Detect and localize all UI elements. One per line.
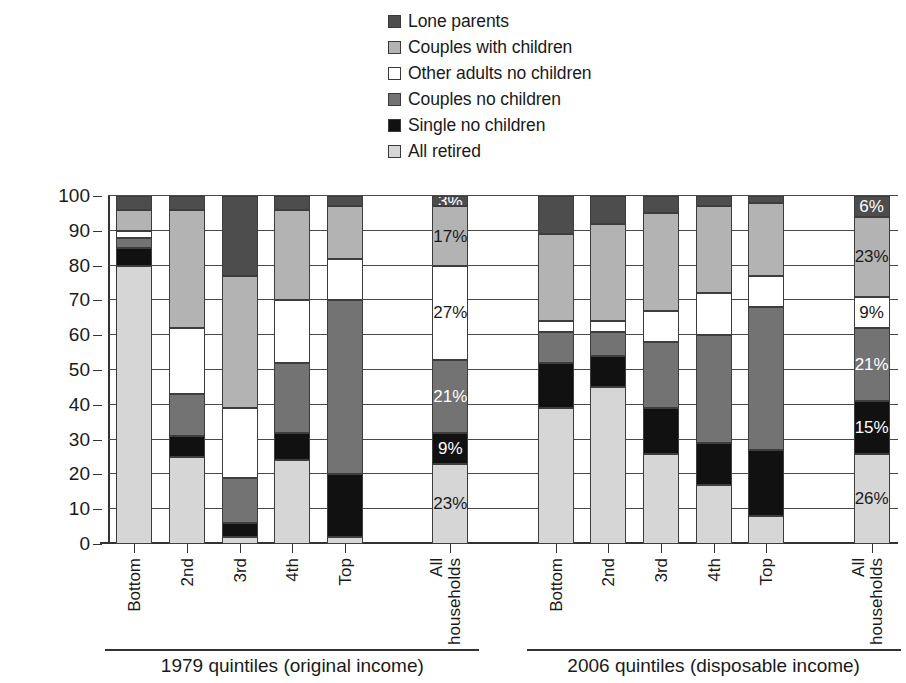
- segment-data-label: 6%: [859, 198, 884, 215]
- bar-segment[interactable]: [274, 210, 310, 300]
- bar-segment[interactable]: [327, 196, 363, 206]
- bar-segment[interactable]: [748, 196, 784, 203]
- bar-segment[interactable]: 6%: [854, 196, 890, 217]
- bar-segment[interactable]: [590, 332, 626, 356]
- bar-segment[interactable]: 21%: [854, 328, 890, 401]
- legend-item[interactable]: Single no children: [388, 112, 718, 138]
- stacked-bar[interactable]: [643, 196, 679, 544]
- bar-segment[interactable]: [748, 450, 784, 516]
- stacked-bar[interactable]: [590, 196, 626, 544]
- bar-segment[interactable]: [116, 266, 152, 544]
- bar-segment[interactable]: [696, 335, 732, 443]
- bar-segment[interactable]: [748, 307, 784, 450]
- bar-segment[interactable]: [643, 408, 679, 453]
- bar-segment[interactable]: [116, 231, 152, 238]
- group-bracket: [105, 649, 479, 651]
- bar-segment[interactable]: 3%: [432, 196, 468, 206]
- stacked-bar[interactable]: [538, 196, 574, 544]
- bar-segment[interactable]: [538, 363, 574, 408]
- bar-segment[interactable]: [116, 248, 152, 265]
- bar-segment[interactable]: [590, 196, 626, 224]
- bar-segment[interactable]: [327, 474, 363, 537]
- bar-segment[interactable]: [696, 196, 732, 206]
- legend-item[interactable]: Couples no children: [388, 86, 718, 112]
- legend-item[interactable]: All retired: [388, 138, 718, 164]
- bar-segment[interactable]: [748, 203, 784, 276]
- stacked-bar[interactable]: 23%9%21%27%17%3%: [432, 196, 468, 544]
- bar-segment[interactable]: [116, 238, 152, 248]
- bar-segment[interactable]: [274, 363, 310, 433]
- bar-segment[interactable]: [116, 210, 152, 231]
- bar-segment[interactable]: [327, 300, 363, 474]
- bar-segment[interactable]: 23%: [432, 464, 468, 544]
- bar-segment[interactable]: [696, 443, 732, 485]
- x-axis-tick-mark: [661, 544, 662, 553]
- x-axis-tick-mark: [187, 544, 188, 553]
- bar-segment[interactable]: [274, 196, 310, 210]
- x-axis-tick-mark: [556, 544, 557, 553]
- stacked-bar[interactable]: [116, 196, 152, 544]
- bar-segment[interactable]: [222, 537, 258, 544]
- bar-segment[interactable]: [643, 342, 679, 408]
- bar-segment[interactable]: [590, 356, 626, 387]
- bar-segment[interactable]: [538, 196, 574, 234]
- bar-segment[interactable]: [327, 537, 363, 544]
- bar-segment[interactable]: [643, 454, 679, 544]
- bar-segment[interactable]: [538, 408, 574, 544]
- x-axis-tick-label: 4th: [705, 558, 725, 650]
- bar-segment[interactable]: 9%: [854, 297, 890, 328]
- stacked-bar[interactable]: [169, 196, 205, 544]
- bar-segment[interactable]: [169, 394, 205, 436]
- bar-segment[interactable]: [538, 332, 574, 363]
- bar-segment[interactable]: [327, 206, 363, 258]
- bar-segment[interactable]: [538, 234, 574, 321]
- bar-segment[interactable]: 26%: [854, 454, 890, 544]
- bar-segment[interactable]: [748, 516, 784, 544]
- bar-segment[interactable]: [590, 321, 626, 331]
- bar-segment[interactable]: [116, 196, 152, 210]
- stacked-bar[interactable]: [696, 196, 732, 544]
- bar-segment[interactable]: 21%: [432, 360, 468, 433]
- bar-segment[interactable]: [643, 311, 679, 342]
- legend-item[interactable]: Lone parents: [388, 8, 718, 34]
- bar-segment[interactable]: [538, 321, 574, 331]
- bar-segment[interactable]: [590, 387, 626, 544]
- stacked-bar[interactable]: [327, 196, 363, 544]
- bar-segment[interactable]: [274, 433, 310, 461]
- x-axis-tick-label: Bottom: [547, 558, 567, 650]
- legend-item[interactable]: Other adults no children: [388, 60, 718, 86]
- x-axis-tick-label: 2nd: [178, 558, 198, 650]
- bar-segment[interactable]: 23%: [854, 217, 890, 297]
- bar-segment[interactable]: [748, 276, 784, 307]
- bar-segment[interactable]: [222, 276, 258, 408]
- stacked-bar[interactable]: [748, 196, 784, 544]
- bar-segment[interactable]: [222, 408, 258, 478]
- legend-item[interactable]: Couples with children: [388, 34, 718, 60]
- bar-segment[interactable]: [643, 213, 679, 310]
- bar-segment[interactable]: [327, 259, 363, 301]
- bar-segment[interactable]: 15%: [854, 401, 890, 453]
- stacked-bar[interactable]: [274, 196, 310, 544]
- bar-segment[interactable]: [696, 206, 732, 293]
- bar-segment[interactable]: [169, 436, 205, 457]
- bar-segment[interactable]: [696, 485, 732, 544]
- bar-segment[interactable]: [274, 300, 310, 363]
- bar-segment[interactable]: [222, 523, 258, 537]
- legend-item-label: Couples no children: [408, 89, 561, 110]
- bar-segment[interactable]: [169, 457, 205, 544]
- bar-segment[interactable]: [590, 224, 626, 321]
- bar-segment[interactable]: [169, 328, 205, 394]
- bar-segment[interactable]: [169, 196, 205, 210]
- y-axis-tick-label: 30: [69, 429, 90, 451]
- bar-segment[interactable]: [169, 210, 205, 328]
- bar-segment[interactable]: 17%: [432, 206, 468, 265]
- bar-segment[interactable]: [274, 460, 310, 544]
- bar-segment[interactable]: [643, 196, 679, 213]
- bar-segment[interactable]: 27%: [432, 266, 468, 360]
- bar-segment[interactable]: [222, 196, 258, 276]
- bar-segment[interactable]: 9%: [432, 433, 468, 464]
- stacked-bar[interactable]: 26%15%21%9%23%6%: [854, 196, 890, 544]
- bar-segment[interactable]: [222, 478, 258, 523]
- bar-segment[interactable]: [696, 293, 732, 335]
- stacked-bar[interactable]: [222, 196, 258, 544]
